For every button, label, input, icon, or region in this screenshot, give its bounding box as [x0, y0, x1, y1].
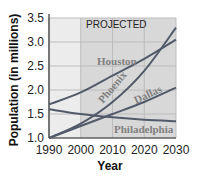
y-tick-label: 2.0 — [27, 83, 44, 97]
x-tick-label: 2000 — [67, 143, 94, 157]
x-tick-label: 2010 — [99, 143, 126, 157]
line-chart: PROJECTED Houston Phoenix Dallas Philade… — [0, 0, 198, 177]
y-tick-label: 2.5 — [27, 59, 44, 73]
series-label-philadelphia: Philadelphia — [114, 123, 174, 135]
projected-annotation: PROJECTED — [86, 19, 147, 30]
y-axis-ticks: 1.01.52.02.53.03.5 — [27, 11, 44, 145]
series-label-houston: Houston — [97, 55, 137, 67]
x-tick-label: 1990 — [36, 143, 63, 157]
x-axis-title: Year — [97, 159, 123, 173]
y-tick-label: 1.5 — [27, 107, 44, 121]
y-tick-label: 3.0 — [27, 35, 44, 49]
y-tick-label: 3.5 — [27, 11, 44, 25]
x-tick-label: 2030 — [163, 143, 190, 157]
x-tick-label: 2020 — [131, 143, 158, 157]
x-axis-ticks: 19902000201020202030 — [36, 143, 190, 157]
y-axis-title: Population (in millions) — [7, 14, 21, 147]
